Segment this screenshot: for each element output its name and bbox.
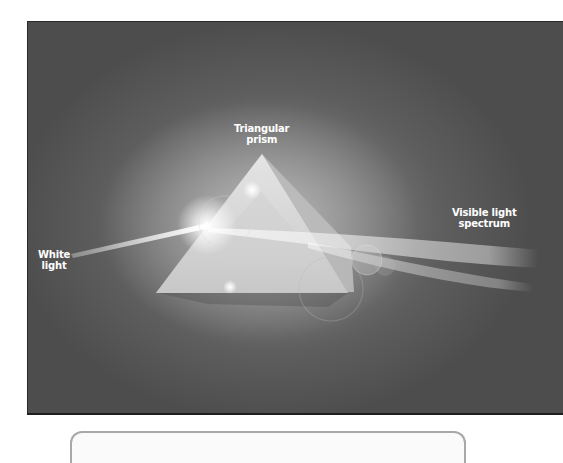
- label-visible-light-spectrum: Visible light spectrum: [452, 207, 517, 229]
- caption-box: [70, 431, 466, 463]
- label-white-light: White light: [38, 249, 70, 271]
- entry-flare: [177, 195, 237, 255]
- prism-diagram: Triangular prism White light Visible lig…: [27, 21, 563, 415]
- base-flare: [223, 280, 237, 294]
- label-triangular-prism: Triangular prism: [234, 123, 289, 145]
- lens-flare-small: [375, 256, 395, 276]
- apex-flare: [243, 181, 261, 199]
